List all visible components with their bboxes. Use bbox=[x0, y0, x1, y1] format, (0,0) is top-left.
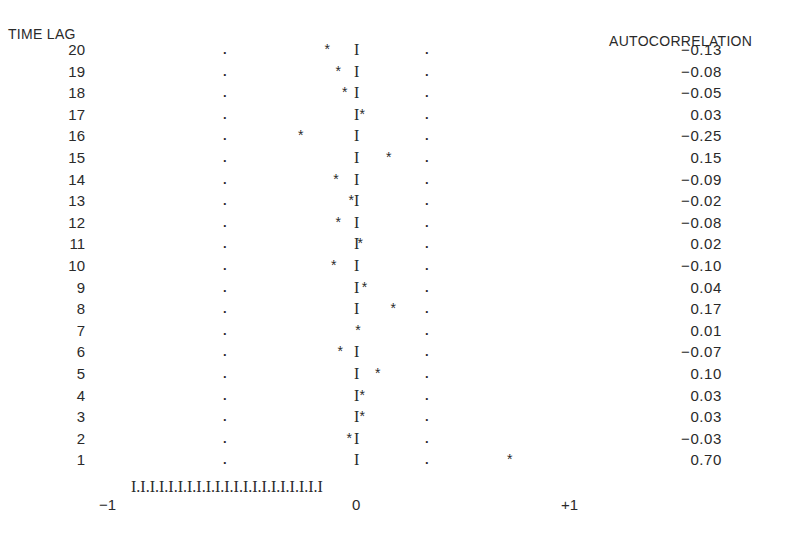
zero-line-marker: I bbox=[354, 171, 359, 189]
autocorrelation-value: 0.15 bbox=[632, 149, 722, 166]
autocorrelation-point: * bbox=[360, 408, 365, 424]
autocorrelation-value: 0.70 bbox=[632, 451, 722, 468]
lag-label: 3 bbox=[55, 408, 85, 425]
lag-label: 13 bbox=[55, 192, 85, 209]
lower-limit-marker: . bbox=[223, 301, 227, 316]
autocorrelation-point: * bbox=[360, 106, 365, 122]
lower-limit-marker: . bbox=[223, 258, 227, 273]
autocorrelation-point: * bbox=[324, 41, 329, 57]
lower-limit-marker: . bbox=[223, 344, 227, 359]
upper-limit-marker: . bbox=[425, 215, 429, 230]
autocorrelation-value: −0.07 bbox=[632, 343, 722, 360]
zero-line-marker: I bbox=[354, 430, 359, 448]
autocorrelation-point: * bbox=[335, 214, 340, 230]
autocorrelation-value: 0.03 bbox=[632, 387, 722, 404]
upper-limit-marker: . bbox=[425, 85, 429, 100]
zero-line-marker: I bbox=[354, 365, 359, 383]
upper-limit-marker: . bbox=[425, 431, 429, 446]
lower-limit-marker: . bbox=[223, 236, 227, 251]
lower-limit-marker: . bbox=[223, 280, 227, 295]
zero-line-marker: I bbox=[354, 387, 359, 405]
lag-label: 7 bbox=[55, 322, 85, 339]
autocorrelation-value: 0.03 bbox=[632, 106, 722, 123]
lower-limit-marker: . bbox=[223, 107, 227, 122]
autocorrelation-point: * bbox=[342, 84, 347, 100]
zero-line-marker: I bbox=[354, 41, 359, 59]
lower-limit-marker: . bbox=[223, 172, 227, 187]
lower-limit-marker: . bbox=[223, 85, 227, 100]
upper-limit-marker: . bbox=[425, 42, 429, 57]
lower-limit-marker: . bbox=[223, 431, 227, 446]
zero-line-marker: I bbox=[354, 214, 359, 232]
upper-limit-marker: . bbox=[425, 366, 429, 381]
autocorrelation-point: * bbox=[507, 451, 512, 467]
autocorrelation-value: −0.25 bbox=[632, 127, 722, 144]
autocorrelation-point: * bbox=[331, 257, 336, 273]
upper-limit-marker: . bbox=[425, 452, 429, 467]
autocorrelation-point: * bbox=[298, 127, 303, 143]
autocorrelation-value: −0.05 bbox=[632, 84, 722, 101]
upper-limit-marker: . bbox=[425, 107, 429, 122]
autocorrelation-point: * bbox=[362, 279, 367, 295]
zero-line-marker: I bbox=[354, 257, 359, 275]
zero-line-marker: I bbox=[354, 149, 359, 167]
lag-label: 5 bbox=[55, 365, 85, 382]
lag-label: 10 bbox=[55, 257, 85, 274]
lag-label: 9 bbox=[55, 279, 85, 296]
lag-label: 1 bbox=[55, 451, 85, 468]
lag-label: 2 bbox=[55, 430, 85, 447]
y-axis-title: TIME LAG bbox=[8, 26, 76, 42]
lag-label: 16 bbox=[55, 127, 85, 144]
autocorrelation-point: * bbox=[355, 322, 360, 338]
autocorrelation-value: −0.09 bbox=[632, 171, 722, 188]
upper-limit-marker: . bbox=[425, 388, 429, 403]
lower-limit-marker: . bbox=[223, 452, 227, 467]
autocorrelation-point: * bbox=[360, 387, 365, 403]
autocorrelation-value: 0.10 bbox=[632, 365, 722, 382]
autocorrelation-value: −0.03 bbox=[632, 430, 722, 447]
autocorrelation-point: * bbox=[338, 343, 343, 359]
upper-limit-marker: . bbox=[425, 236, 429, 251]
upper-limit-marker: . bbox=[425, 128, 429, 143]
x-tick-zero: 0 bbox=[352, 496, 360, 513]
autocorrelation-point: * bbox=[357, 235, 362, 251]
lag-label: 15 bbox=[55, 149, 85, 166]
upper-limit-marker: . bbox=[425, 193, 429, 208]
zero-line-marker: I bbox=[354, 279, 359, 297]
autocorrelation-point: * bbox=[335, 63, 340, 79]
upper-limit-marker: . bbox=[425, 64, 429, 79]
lag-label: 6 bbox=[55, 343, 85, 360]
lower-limit-marker: . bbox=[223, 215, 227, 230]
autocorrelation-value: −0.08 bbox=[632, 63, 722, 80]
lower-limit-marker: . bbox=[223, 42, 227, 57]
lag-label: 4 bbox=[55, 387, 85, 404]
lag-label: 20 bbox=[55, 41, 85, 58]
autocorrelation-point: * bbox=[333, 171, 338, 187]
lower-limit-marker: . bbox=[223, 366, 227, 381]
zero-line-marker: I bbox=[354, 106, 359, 124]
lag-label: 19 bbox=[55, 63, 85, 80]
upper-limit-marker: . bbox=[425, 409, 429, 424]
lag-label: 11 bbox=[55, 235, 85, 252]
zero-line-marker: I bbox=[354, 408, 359, 426]
x-axis-line: I.I.I.I.I.I.I.I.I.I.I.I.I.I.I.I.I.I.I.I.… bbox=[131, 478, 323, 496]
zero-line-marker: I bbox=[354, 451, 359, 469]
zero-line-marker: I bbox=[354, 84, 359, 102]
lower-limit-marker: . bbox=[223, 128, 227, 143]
zero-line-marker: I bbox=[354, 127, 359, 145]
x-tick-plus-one: +1 bbox=[561, 496, 578, 513]
autocorrelation-point: * bbox=[386, 149, 391, 165]
upper-limit-marker: . bbox=[425, 258, 429, 273]
upper-limit-marker: . bbox=[425, 301, 429, 316]
autocorrelation-value: −0.08 bbox=[632, 214, 722, 231]
upper-limit-marker: . bbox=[425, 344, 429, 359]
lower-limit-marker: . bbox=[223, 409, 227, 424]
lag-label: 17 bbox=[55, 106, 85, 123]
autocorrelation-value: 0.01 bbox=[632, 322, 722, 339]
autocorrelation-value: 0.04 bbox=[632, 279, 722, 296]
lower-limit-marker: . bbox=[223, 388, 227, 403]
x-tick-minus-one: −1 bbox=[99, 496, 116, 513]
autocorrelation-point: * bbox=[375, 365, 380, 381]
lower-limit-marker: . bbox=[223, 64, 227, 79]
autocorrelation-value: 0.17 bbox=[632, 300, 722, 317]
